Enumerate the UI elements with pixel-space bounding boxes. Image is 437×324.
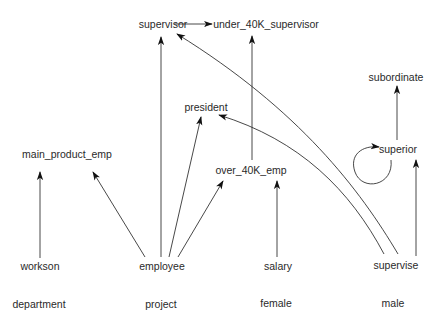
edge-supervise-to-supervisor xyxy=(177,34,398,254)
edge-employee-to-main_product_emp xyxy=(93,172,145,257)
node-supervise: supervise xyxy=(374,259,419,271)
node-superior: superior xyxy=(379,143,417,155)
node-under_40K_supervisor: under_40K_supervisor xyxy=(213,18,319,30)
graph-diagram: supervisor under_40K_supervisor subordin… xyxy=(0,0,437,324)
edge-employee-to-over_40K_emp xyxy=(178,181,223,257)
edges xyxy=(40,24,416,258)
node-female: female xyxy=(260,297,292,309)
node-president: president xyxy=(184,101,227,113)
node-over_40K_emp: over_40K_emp xyxy=(215,164,286,176)
node-project: project xyxy=(145,298,177,310)
node-employee: employee xyxy=(139,260,185,272)
node-supervisor: supervisor xyxy=(139,18,188,30)
edge-employee-to-president xyxy=(169,117,201,257)
node-department: department xyxy=(12,298,65,310)
node-main_product_emp: main_product_emp xyxy=(22,148,112,160)
nodes: supervisor under_40K_supervisor subordin… xyxy=(12,18,423,310)
edge-supervise-to-president xyxy=(219,115,384,254)
node-subordinate: subordinate xyxy=(369,71,424,83)
node-salary: salary xyxy=(264,260,293,272)
node-male: male xyxy=(382,297,405,309)
node-workson: workson xyxy=(19,260,59,272)
